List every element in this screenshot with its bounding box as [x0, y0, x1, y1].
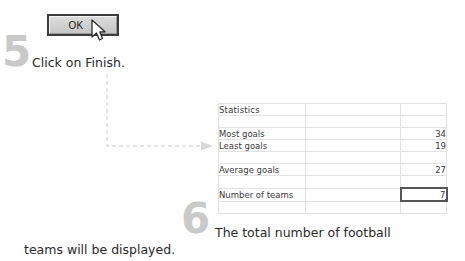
- table-row[interactable]: Least goals 19: [219, 140, 447, 152]
- table-title-cell[interactable]: Statistics: [219, 104, 306, 116]
- table-title-spacer-cell-2[interactable]: [401, 104, 447, 116]
- table-title-spacer-cell[interactable]: [306, 104, 401, 116]
- statistics-table[interactable]: Statistics Most goals 34 Least goals 19 …: [218, 103, 448, 214]
- fill-handle[interactable]: [445, 199, 447, 201]
- row-value-most-goals[interactable]: 34: [401, 128, 447, 140]
- instruction-step-6-line-1: The total number of football: [215, 225, 391, 240]
- spacer-cell[interactable]: [401, 116, 447, 128]
- row-middle-cell[interactable]: [306, 140, 401, 152]
- table-row-spacer[interactable]: [219, 176, 447, 189]
- ok-button-face: OK: [49, 16, 117, 34]
- spacer-cell[interactable]: [401, 201, 447, 214]
- row-value-average-goals[interactable]: 27: [401, 164, 447, 176]
- row-middle-cell[interactable]: [306, 188, 401, 201]
- selected-cell-number-of-teams[interactable]: 7: [401, 188, 447, 201]
- spacer-cell[interactable]: [219, 116, 306, 128]
- row-middle-cell[interactable]: [306, 128, 401, 140]
- table-row[interactable]: Average goals 27: [219, 164, 447, 176]
- table-row-title[interactable]: Statistics: [219, 104, 447, 116]
- spacer-cell[interactable]: [306, 152, 401, 164]
- row-label-least-goals[interactable]: Least goals: [219, 140, 306, 152]
- table-row[interactable]: Most goals 34: [219, 128, 447, 140]
- spacer-cell[interactable]: [401, 176, 447, 189]
- table-row[interactable]: Number of teams 7: [219, 188, 447, 201]
- row-middle-cell[interactable]: [306, 164, 401, 176]
- table-row-spacer[interactable]: [219, 201, 447, 214]
- table-row-spacer[interactable]: [219, 152, 447, 164]
- instruction-step-5: Click on Finish.: [32, 55, 125, 70]
- spacer-cell[interactable]: [306, 201, 401, 214]
- row-value-least-goals[interactable]: 19: [401, 140, 447, 152]
- table-row-spacer[interactable]: [219, 116, 447, 128]
- row-label-average-goals[interactable]: Average goals: [219, 164, 306, 176]
- step-numeral-6: 6: [181, 198, 210, 240]
- instruction-step-6-line-2: teams will be displayed.: [24, 242, 175, 257]
- row-label-number-of-teams[interactable]: Number of teams: [219, 188, 306, 201]
- spacer-cell[interactable]: [306, 176, 401, 189]
- step-numeral-5: 5: [2, 31, 31, 73]
- spacer-cell[interactable]: [306, 116, 401, 128]
- spacer-cell[interactable]: [401, 152, 447, 164]
- row-label-most-goals[interactable]: Most goals: [219, 128, 306, 140]
- dashed-arrow-icon: [95, 72, 220, 157]
- selected-cell-value: 7: [440, 190, 445, 200]
- ok-button[interactable]: OK: [47, 14, 119, 36]
- spacer-cell[interactable]: [219, 201, 306, 214]
- spacer-cell[interactable]: [219, 176, 306, 189]
- ok-button-label: OK: [68, 20, 83, 31]
- spacer-cell[interactable]: [219, 152, 306, 164]
